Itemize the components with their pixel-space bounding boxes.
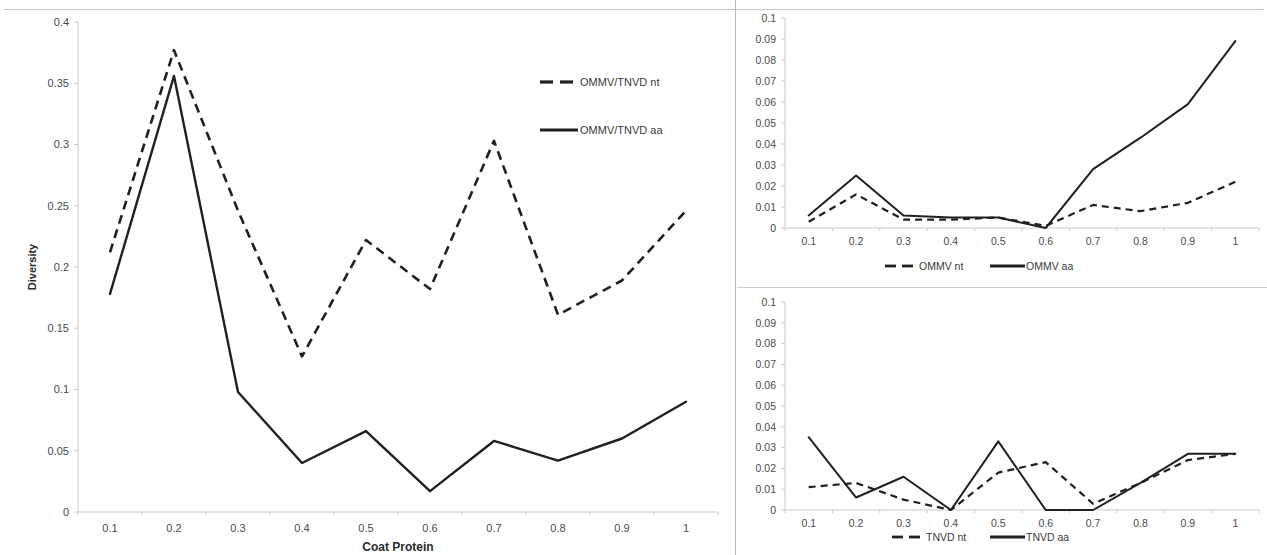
tnvd-x-tick-label: 0.6 [1038, 517, 1053, 529]
main-x-tick-label: 1 [683, 522, 689, 534]
tnvd-chart-panel: 00.010.020.030.040.050.060.070.080.090.1… [737, 288, 1267, 555]
main-series-line-nt [110, 50, 686, 356]
ommv-chart-svg: 00.010.020.030.040.050.060.070.080.090.1… [737, 0, 1267, 288]
tnvd-x-tick-label: 0.7 [1086, 517, 1101, 529]
main-x-tick-label: 0.3 [230, 522, 245, 534]
ommv-chart-panel: 00.010.020.030.040.050.060.070.080.090.1… [737, 0, 1267, 288]
ommv-x-tick-label: 0.2 [849, 235, 864, 247]
main-y-axis-title: Diversity [26, 243, 38, 290]
ommv-series-line-aa [809, 41, 1236, 228]
main-series-line-aa [110, 76, 686, 491]
main-y-tick-label: 0.1 [54, 383, 69, 395]
tnvd-x-tick-label: 0.4 [944, 517, 959, 529]
tnvd-y-tick-label: 0.1 [761, 296, 776, 308]
main-x-tick-label: 0.6 [422, 522, 437, 534]
ommv-y-tick-label: 0.07 [756, 75, 777, 87]
main-y-tick-label: 0.4 [54, 16, 69, 28]
main-x-tick-label: 0.2 [166, 522, 181, 534]
ommv-x-tick-label: 1 [1232, 235, 1238, 247]
ommv-y-tick-label: 0.03 [756, 159, 777, 171]
main-y-tick-label: 0.05 [48, 445, 69, 457]
ommv-legend-label-nt: OMMV nt [919, 260, 963, 272]
tnvd-y-axis-ticks: 00.010.020.030.040.050.060.070.080.090.1 [756, 296, 785, 516]
ommv-x-tick-label: 0.6 [1038, 235, 1053, 247]
ommv-y-tick-label: 0.01 [756, 201, 777, 213]
main-y-tick-label: 0.15 [48, 322, 69, 334]
ommv-y-axis-ticks: 00.010.020.030.040.050.060.070.080.090.1 [756, 12, 785, 234]
ommv-x-tick-label: 0.4 [944, 235, 959, 247]
tnvd-chart-legend: TNVD nt TNVD aa [892, 531, 1069, 543]
tnvd-x-tick-label: 0.2 [849, 517, 864, 529]
tnvd-y-tick-label: 0.05 [756, 400, 777, 412]
main-y-tick-label: 0.2 [54, 261, 69, 273]
tnvd-chart-svg: 00.010.020.030.040.050.060.070.080.090.1… [737, 288, 1267, 555]
tnvd-y-tick-label: 0.01 [756, 483, 777, 495]
main-y-tick-label: 0 [63, 506, 69, 518]
ommv-x-tick-label: 0.8 [1133, 235, 1148, 247]
main-x-tick-label: 0.4 [294, 522, 309, 534]
tnvd-y-tick-label: 0.02 [756, 462, 777, 474]
tnvd-y-tick-label: 0.06 [756, 379, 777, 391]
main-y-tick-label: 0.35 [48, 77, 69, 89]
main-x-tick-label: 0.1 [102, 522, 117, 534]
ommv-y-tick-label: 0 [770, 222, 776, 234]
tnvd-x-tick-label: 0.1 [801, 517, 816, 529]
ommv-x-axis-ticks: 0.10.20.30.40.50.60.70.80.91 [785, 228, 1259, 247]
tnvd-y-tick-label: 0 [770, 504, 776, 516]
figure-canvas: 00.050.10.150.20.250.30.350.4 0.10.20.30… [0, 0, 1267, 555]
ommv-y-tick-label: 0.09 [756, 33, 777, 45]
tnvd-y-tick-label: 0.04 [756, 421, 777, 433]
ommv-y-tick-label: 0.1 [761, 12, 776, 24]
main-legend-label-nt: OMMV/TNVD nt [580, 76, 659, 88]
ommv-chart-legend: OMMV nt OMMV aa [885, 260, 1073, 272]
ommv-y-tick-label: 0.08 [756, 54, 777, 66]
tnvd-legend-label-aa: TNVD aa [1026, 531, 1069, 543]
tnvd-y-tick-label: 0.03 [756, 441, 777, 453]
main-chart-svg: 00.050.10.150.20.250.30.350.4 0.10.20.30… [0, 0, 735, 555]
ommv-x-tick-label: 0.7 [1086, 235, 1101, 247]
tnvd-series-line-aa [809, 437, 1236, 510]
main-x-tick-label: 0.5 [358, 522, 373, 534]
main-x-axis-ticks: 0.10.20.30.40.50.60.70.80.91 [78, 512, 718, 534]
tnvd-x-tick-label: 0.8 [1133, 517, 1148, 529]
ommv-y-tick-label: 0.04 [756, 138, 777, 150]
ommv-x-tick-label: 0.3 [896, 235, 911, 247]
tnvd-x-tick-label: 0.5 [991, 517, 1006, 529]
tnvd-x-tick-label: 0.9 [1181, 517, 1196, 529]
tnvd-x-tick-label: 0.3 [896, 517, 911, 529]
main-legend-label-aa: OMMV/TNVD aa [580, 124, 663, 136]
tnvd-x-axis-ticks: 0.10.20.30.40.50.60.70.80.91 [785, 510, 1259, 529]
tnvd-y-tick-label: 0.08 [756, 337, 777, 349]
ommv-y-tick-label: 0.06 [756, 96, 777, 108]
main-y-tick-label: 0.3 [54, 138, 69, 150]
tnvd-series-line-nt [809, 454, 1236, 510]
tnvd-x-tick-label: 1 [1232, 517, 1238, 529]
tnvd-y-tick-label: 0.09 [756, 317, 777, 329]
tnvd-y-tick-label: 0.07 [756, 358, 777, 370]
ommv-x-tick-label: 0.5 [991, 235, 1006, 247]
main-x-axis-title: Coat Protein [362, 540, 433, 554]
main-x-tick-label: 0.8 [550, 522, 565, 534]
main-chart-legend: OMMV/TNVD nt OMMV/TNVD aa [540, 76, 663, 136]
main-y-axis-ticks: 00.050.10.150.20.250.30.350.4 [48, 16, 78, 518]
vertical-panel-divider [735, 0, 736, 555]
main-x-tick-label: 0.9 [614, 522, 629, 534]
tnvd-legend-label-nt: TNVD nt [926, 531, 966, 543]
ommv-y-tick-label: 0.05 [756, 117, 777, 129]
main-chart-panel: 00.050.10.150.20.250.30.350.4 0.10.20.30… [0, 0, 735, 555]
ommv-x-tick-label: 0.1 [801, 235, 816, 247]
main-y-tick-label: 0.25 [48, 200, 69, 212]
main-x-tick-label: 0.7 [486, 522, 501, 534]
ommv-y-tick-label: 0.02 [756, 180, 777, 192]
ommv-legend-label-aa: OMMV aa [1026, 260, 1073, 272]
ommv-x-tick-label: 0.9 [1181, 235, 1196, 247]
